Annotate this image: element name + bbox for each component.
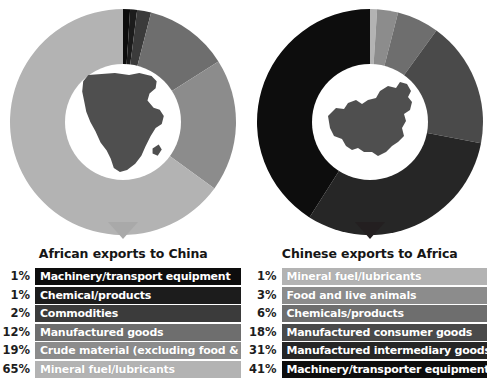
legend-label: Mineral fuel/lubricants — [287, 270, 422, 283]
legend-color-bar: Manufactured consumer goods — [282, 324, 488, 341]
legend-label: Mineral fuel/lubricants — [40, 363, 175, 376]
legend-color-bar: Machinery/transporter equipment — [282, 361, 488, 378]
donut-chart-chinese-exports — [247, 8, 493, 236]
legend-percent: 65% — [2, 361, 35, 378]
pointer-triangle-left — [108, 222, 138, 239]
donut-svg-left — [9, 8, 237, 236]
legend-color-bar: Machinery/transport equipment — [35, 268, 241, 285]
legend-color-bar: Food and live animals — [282, 287, 488, 304]
legend-percent: 1% — [2, 287, 35, 304]
legend-percent: 19% — [2, 342, 35, 359]
legend-african-exports: 1%Machinery/transport equipment1%Chemica… — [0, 268, 247, 379]
legend-label: Manufactured consumer goods — [287, 326, 473, 339]
legend-row[interactable]: 6%Chemicals/products — [249, 305, 488, 322]
legend-row[interactable]: 41%Machinery/transporter equipment — [249, 361, 488, 378]
panel-african-exports-to-china: African exports to China 1%Machinery/tra… — [0, 0, 247, 380]
donut-svg-right — [256, 8, 484, 236]
legend-row[interactable]: 1%Machinery/transport equipment — [2, 268, 241, 285]
trade-infographic: African exports to China 1%Machinery/tra… — [0, 0, 493, 380]
chart-title-left: African exports to China — [0, 246, 247, 261]
legend-row[interactable]: 1%Mineral fuel/lubricants — [249, 268, 488, 285]
legend-row[interactable]: 12%Manufactured goods — [2, 324, 241, 341]
legend-label: Machinery/transport equipment — [40, 270, 230, 283]
legend-color-bar: Manufactured intermediary goods — [282, 342, 488, 359]
donut-chart-african-exports — [0, 8, 247, 236]
panel-chinese-exports-to-africa: Chinese exports to Africa 1%Mineral fuel… — [247, 0, 493, 380]
legend-percent: 1% — [249, 268, 282, 285]
legend-chinese-exports: 1%Mineral fuel/lubricants3%Food and live… — [247, 268, 493, 379]
legend-percent: 2% — [2, 305, 35, 322]
legend-row[interactable]: 19%Crude material (excluding food & fuel… — [2, 342, 241, 359]
legend-label: Machinery/transporter equipment — [287, 363, 488, 376]
legend-percent: 12% — [2, 324, 35, 341]
legend-label: Manufactured intermediary goods — [287, 344, 488, 357]
legend-row[interactable]: 65%Mineral fuel/lubricants — [2, 361, 241, 378]
legend-percent: 1% — [2, 268, 35, 285]
chart-title-right: Chinese exports to Africa — [247, 246, 493, 261]
legend-label: Commodities — [40, 307, 118, 320]
legend-label: Chemicals/products — [287, 307, 404, 320]
legend-percent: 6% — [249, 305, 282, 322]
legend-percent: 3% — [249, 287, 282, 304]
legend-percent: 31% — [249, 342, 282, 359]
legend-percent: 18% — [249, 324, 282, 341]
legend-percent: 41% — [249, 361, 282, 378]
legend-label: Manufactured goods — [40, 326, 163, 339]
legend-row[interactable]: 31%Manufactured intermediary goods — [249, 342, 488, 359]
legend-color-bar: Commodities — [35, 305, 241, 322]
legend-label: Chemical/products — [40, 289, 151, 302]
legend-row[interactable]: 1%Chemical/products — [2, 287, 241, 304]
legend-color-bar: Chemicals/products — [282, 305, 488, 322]
legend-label: Food and live animals — [287, 289, 417, 302]
legend-color-bar: Crude material (excluding food & fuel) — [35, 342, 241, 359]
pointer-triangle-right — [355, 222, 385, 239]
legend-row[interactable]: 3%Food and live animals — [249, 287, 488, 304]
legend-color-bar: Manufactured goods — [35, 324, 241, 341]
legend-color-bar: Chemical/products — [35, 287, 241, 304]
legend-color-bar: Mineral fuel/lubricants — [35, 361, 241, 378]
legend-row[interactable]: 18%Manufactured consumer goods — [249, 324, 488, 341]
legend-label: Crude material (excluding food & fuel) — [40, 344, 241, 357]
legend-row[interactable]: 2%Commodities — [2, 305, 241, 322]
legend-color-bar: Mineral fuel/lubricants — [282, 268, 488, 285]
